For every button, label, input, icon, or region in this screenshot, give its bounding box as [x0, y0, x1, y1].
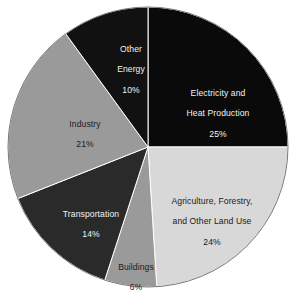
pie-slice-agriculture-forestry-and-other-land-use: [148, 147, 288, 287]
pie-svg: [0, 0, 302, 298]
pie-slice-electricity-and-heat-production: [148, 7, 288, 147]
pie-slice-group: [8, 7, 288, 287]
pie-chart: Electricity and Heat Production 25% Agri…: [0, 0, 302, 298]
